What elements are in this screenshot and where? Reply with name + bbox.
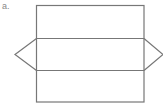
net-right-triangle bbox=[144, 39, 163, 71]
triangular-prism-net bbox=[0, 0, 163, 109]
net-left-triangle bbox=[15, 39, 37, 71]
net-outer-rectangle bbox=[37, 6, 145, 103]
